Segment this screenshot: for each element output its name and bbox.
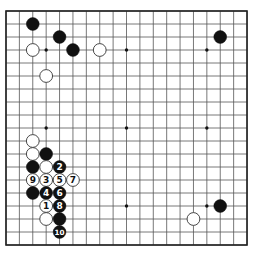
stone-disc	[26, 44, 39, 57]
stone-disc	[40, 70, 53, 83]
stone-disc	[26, 161, 39, 174]
move-number-label: 3	[43, 175, 49, 185]
stone-disc	[26, 135, 39, 148]
star-point	[125, 48, 128, 51]
white-stone: 7	[67, 174, 80, 187]
white-stone	[26, 148, 39, 161]
black-stone: 10	[53, 226, 66, 239]
move-number-label: 9	[30, 175, 36, 185]
white-stone: 9	[26, 174, 39, 187]
star-point	[44, 48, 47, 51]
black-stone	[26, 18, 39, 31]
star-point	[125, 126, 128, 129]
star-point	[125, 204, 128, 207]
move-number-label: 8	[56, 201, 62, 211]
black-stone: 6	[53, 187, 66, 200]
stone-disc	[214, 31, 227, 44]
white-stone	[93, 44, 106, 57]
stone-disc	[214, 200, 227, 213]
white-stone	[26, 44, 39, 57]
go-board: 29357461810	[0, 0, 256, 256]
white-stone: 3	[40, 174, 53, 187]
black-stone	[53, 31, 66, 44]
move-number-label: 5	[56, 175, 62, 185]
black-stone	[214, 31, 227, 44]
white-stone	[26, 135, 39, 148]
stone-disc	[26, 148, 39, 161]
stone-disc	[53, 31, 66, 44]
stone-disc	[93, 44, 106, 57]
stone-disc	[26, 18, 39, 31]
black-stone	[67, 44, 80, 57]
stone-disc	[40, 148, 53, 161]
stone-disc	[26, 187, 39, 200]
stone-disc	[187, 213, 200, 226]
star-point	[205, 126, 208, 129]
move-number-label: 4	[43, 188, 49, 198]
white-stone	[40, 70, 53, 83]
black-stone	[214, 200, 227, 213]
star-point	[205, 48, 208, 51]
stone-disc	[40, 161, 53, 174]
move-number-label: 2	[56, 162, 62, 172]
black-stone: 8	[53, 200, 66, 213]
white-stone: 5	[53, 174, 66, 187]
black-stone	[53, 213, 66, 226]
white-stone	[40, 213, 53, 226]
black-stone	[40, 148, 53, 161]
move-number-label: 7	[70, 175, 76, 185]
move-number-label: 1	[43, 201, 49, 211]
move-number-label: 10	[55, 228, 65, 237]
black-stone	[26, 161, 39, 174]
stone-disc	[40, 213, 53, 226]
white-stone	[40, 161, 53, 174]
black-stone	[26, 187, 39, 200]
stone-disc	[67, 44, 80, 57]
white-stone	[187, 213, 200, 226]
stone-disc	[53, 213, 66, 226]
move-number-label: 6	[56, 188, 62, 198]
star-point	[205, 204, 208, 207]
black-stone: 4	[40, 187, 53, 200]
star-point	[44, 126, 47, 129]
white-stone: 1	[40, 200, 53, 213]
black-stone: 2	[53, 161, 66, 174]
